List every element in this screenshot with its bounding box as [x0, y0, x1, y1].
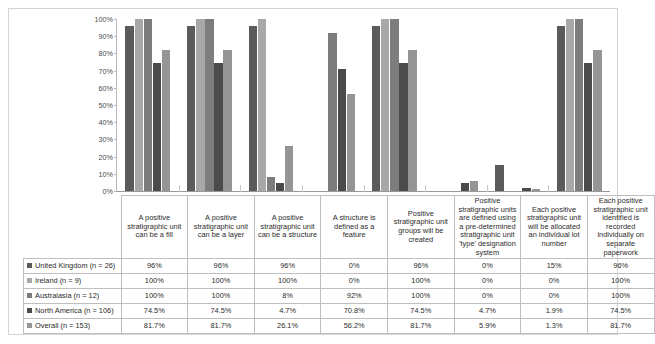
- table-cell-value: 100%: [587, 289, 654, 304]
- table-cell-value: 100%: [121, 289, 188, 304]
- bar-group: [117, 19, 179, 191]
- bar: [381, 19, 389, 191]
- bar: [125, 26, 133, 191]
- y-axis-tick-mark: [114, 139, 117, 140]
- column-header: Positive stratigraphic unit groups will …: [388, 196, 455, 259]
- bar: [249, 26, 257, 191]
- bar: [557, 26, 565, 191]
- table-cell-value: 0%: [521, 274, 588, 289]
- plot-column-separator: [364, 185, 365, 192]
- column-header: A positive stratigraphic unit can be a l…: [188, 196, 255, 259]
- y-axis-tick-label: 80%: [77, 50, 113, 57]
- y-axis-tick-label: 30%: [77, 136, 113, 143]
- table-cell-value: 5.9%: [454, 319, 521, 334]
- y-axis-tick-label: 40%: [77, 119, 113, 126]
- bar: [205, 19, 213, 191]
- bar: [338, 69, 346, 191]
- table-cell-value: 8%: [254, 289, 321, 304]
- table-cell-value: 100%: [121, 274, 188, 289]
- table-cell-value: 96%: [188, 259, 255, 274]
- table-cell-value: 81.7%: [388, 319, 455, 334]
- bar: [461, 183, 469, 191]
- table-cell-value: 56.2%: [321, 319, 388, 334]
- table-header-row: A positive stratigraphic unit can be a f…: [24, 196, 655, 259]
- table-cell-value: 81.7%: [587, 319, 654, 334]
- legend-entry: Australasia (n = 12): [24, 289, 122, 304]
- bar-group: [487, 19, 549, 191]
- chart-figure: 100%90%80%70%60%50%40%30%20%10%0% A posi…: [8, 8, 618, 335]
- plot-column-separator: [302, 185, 303, 192]
- bar: [408, 50, 416, 191]
- y-axis-tick-label: 100%: [77, 16, 113, 23]
- legend-swatch-icon: [27, 323, 32, 328]
- table-cell-value: 100%: [188, 289, 255, 304]
- legend-entry-label: Australasia (n = 12): [35, 291, 99, 300]
- bar: [153, 63, 161, 191]
- table-cell-value: 81.7%: [188, 319, 255, 334]
- plot-area: 100%90%80%70%60%50%40%30%20%10%0%: [9, 9, 617, 197]
- legend-entry: North America (n = 106): [24, 304, 122, 319]
- bar: [593, 50, 601, 191]
- table-cell-value: 4.7%: [254, 304, 321, 319]
- table-row: Australasia (n = 12)100%100%8%92%100%0%0…: [24, 289, 655, 304]
- legend-entry: United Kingdom (n = 26): [24, 259, 122, 274]
- y-axis-tick-mark: [114, 174, 117, 175]
- bars-container: [117, 19, 610, 191]
- table-cell-value: 4.7%: [454, 304, 521, 319]
- column-header: A structure is defined as a feature: [321, 196, 388, 259]
- bar: [328, 33, 336, 191]
- table-row: Overall (n = 153)81.7%81.7%26.1%56.2%81.…: [24, 319, 655, 334]
- bar: [532, 189, 540, 191]
- column-header: Each positive stratigraphic unit will be…: [521, 196, 588, 259]
- y-axis-tick-label: 90%: [77, 33, 113, 40]
- y-axis-tick-mark: [114, 88, 117, 89]
- y-axis-tick-label: 50%: [77, 102, 113, 109]
- plot-column-separator: [179, 185, 180, 192]
- legend-entry: Overall (n = 153): [24, 319, 122, 334]
- legend-entry: Ireland (n = 9): [24, 274, 122, 289]
- table-cell-value: 70.8%: [321, 304, 388, 319]
- table-cell-value: 81.7%: [121, 319, 188, 334]
- table-cell-value: 92%: [321, 289, 388, 304]
- table-cell-value: 100%: [388, 274, 455, 289]
- bar: [258, 19, 266, 191]
- data-table: A positive stratigraphic unit can be a f…: [23, 195, 655, 334]
- column-header: A positive stratigraphic unit can be a s…: [254, 196, 321, 259]
- bar: [276, 183, 284, 191]
- column-header: Each positive stratigraphic unit identif…: [587, 196, 654, 259]
- table-body: United Kingdom (n = 26)96%96%96%0%96%0%1…: [24, 259, 655, 334]
- plot-column-separator: [425, 185, 426, 192]
- bar: [495, 165, 503, 191]
- bar: [144, 19, 152, 191]
- y-axis-tick-mark: [114, 191, 117, 192]
- y-axis-tick-mark: [114, 53, 117, 54]
- plot-column-separator: [548, 185, 549, 192]
- y-axis-tick-label: 70%: [77, 67, 113, 74]
- table-cell-value: 0%: [321, 259, 388, 274]
- bar: [214, 63, 222, 191]
- legend-entry-label: Overall (n = 153): [35, 321, 90, 330]
- bar: [162, 50, 170, 191]
- legend-entry-label: North America (n = 106): [35, 306, 114, 315]
- y-axis-tick-mark: [114, 105, 117, 106]
- table-cell-value: 15%: [521, 259, 588, 274]
- table-cell-value: 26.1%: [254, 319, 321, 334]
- bar: [470, 181, 478, 191]
- bar: [584, 63, 592, 191]
- table-cell-value: 74.5%: [587, 304, 654, 319]
- table-cell-value: 1.3%: [521, 319, 588, 334]
- bar-group: [548, 19, 610, 191]
- bar: [196, 19, 204, 191]
- table-cell-value: 96%: [121, 259, 188, 274]
- y-axis-tick-mark: [114, 71, 117, 72]
- table-cell-value: 0%: [454, 289, 521, 304]
- table-cell-value: 74.5%: [188, 304, 255, 319]
- y-axis-tick-label: 60%: [77, 84, 113, 91]
- table-header: A positive stratigraphic unit can be a f…: [24, 196, 655, 259]
- table-cell-value: 100%: [587, 274, 654, 289]
- table-row: Ireland (n = 9)100%100%100%0%100%0%0%100…: [24, 274, 655, 289]
- legend-swatch-icon: [27, 308, 32, 313]
- bar-group: [425, 19, 487, 191]
- legend-swatch-icon: [27, 263, 32, 268]
- table-cell-value: 0%: [521, 289, 588, 304]
